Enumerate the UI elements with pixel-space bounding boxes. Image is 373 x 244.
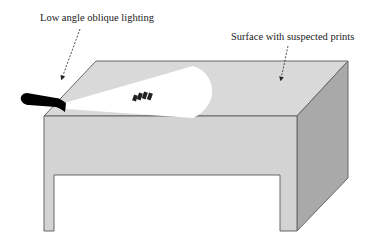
table-opening [55, 176, 279, 232]
lighting-label: Low angle oblique lighting [40, 12, 154, 23]
lighting-arrow [62, 29, 80, 78]
surface-label: Surface with suspected prints [231, 31, 354, 42]
diagram-canvas: Low angle oblique lighting Surface with … [0, 0, 373, 244]
